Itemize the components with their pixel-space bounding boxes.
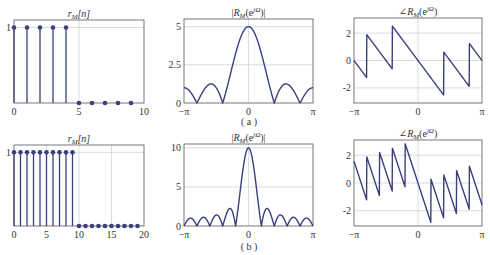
plot-title: rM[n] <box>68 8 91 21</box>
stem-marker <box>83 224 88 229</box>
x-tick-label: −π <box>349 229 360 240</box>
y-tick-label: 5 <box>176 21 181 32</box>
y-tick-label: 5 <box>176 181 181 192</box>
x-tick-label: π <box>479 106 484 117</box>
plot-b-phase: −π0π-202∠RM(ejΩ) <box>343 127 485 240</box>
figure-canvas: 05101rM[n] −π0π02.55|RM(ejΩ)| −π0π-202∠R… <box>0 0 490 255</box>
plot-title: rM[n] <box>68 133 91 146</box>
y-tick-label: 10 <box>171 142 181 153</box>
stem-marker <box>51 25 56 30</box>
figure: 05101rM[n] −π0π02.55|RM(ejΩ)| −π0π-202∠R… <box>0 0 490 255</box>
plot-a-phase: −π0π-202∠RM(ejΩ) <box>343 5 485 117</box>
x-tick-label: 0 <box>416 229 421 240</box>
stem-marker <box>44 150 49 155</box>
y-tick-label: 1 <box>6 22 11 33</box>
stem-marker <box>38 25 43 30</box>
stem-marker <box>25 150 30 155</box>
plot-a-magnitude: −π0π02.55|RM(ejΩ)| <box>169 6 316 117</box>
caption-a: ( a ) <box>241 116 257 128</box>
plot-title: |RM(ejΩ)| <box>231 6 265 20</box>
x-tick-label: 0 <box>12 229 17 240</box>
stem-marker <box>135 224 140 229</box>
stem-marker <box>51 150 56 155</box>
stem-marker <box>64 150 69 155</box>
stem-marker <box>109 224 114 229</box>
x-tick-label: 10 <box>74 229 84 240</box>
y-tick-label: 2 <box>346 28 351 39</box>
stem-marker <box>77 224 82 229</box>
plot-title: ∠RM(ejΩ) <box>399 5 437 19</box>
x-tick-label: π <box>479 229 484 240</box>
stem-marker <box>116 224 121 229</box>
stem-marker <box>57 150 62 155</box>
stem-marker <box>12 150 17 155</box>
x-tick-label: 5 <box>77 106 82 117</box>
stem-marker <box>129 224 134 229</box>
x-tick-label: π <box>310 106 315 117</box>
stem-marker <box>64 25 69 30</box>
plot-a-time: 05101rM[n] <box>6 8 149 117</box>
x-tick-label: π <box>310 229 315 240</box>
x-tick-label: 5 <box>44 229 49 240</box>
stem-marker <box>25 25 30 30</box>
stem-marker <box>103 101 108 106</box>
y-tick-label: 1 <box>6 147 11 158</box>
stem-marker <box>31 150 36 155</box>
x-tick-label: 0 <box>416 106 421 117</box>
y-tick-label: 0 <box>176 221 181 232</box>
y-tick-label: 2 <box>346 150 351 161</box>
stem-marker <box>12 25 17 30</box>
plot-b-time: 051015201rM[n] <box>6 133 149 240</box>
stem-marker <box>77 101 82 106</box>
y-tick-label: -2 <box>343 205 351 216</box>
y-tick-label: 0 <box>346 178 351 189</box>
plot-title: ∠RM(ejΩ) <box>399 127 437 141</box>
stem-marker <box>90 224 95 229</box>
plot-b-magnitude: −π0π0510|RM(ejΩ)| <box>171 131 316 240</box>
x-tick-label: 0 <box>12 106 17 117</box>
stem-marker <box>103 224 108 229</box>
x-tick-label: 0 <box>246 229 251 240</box>
stem-marker <box>70 150 75 155</box>
y-tick-label: 0 <box>176 98 181 109</box>
stem-marker <box>116 101 121 106</box>
x-tick-label: 15 <box>107 229 117 240</box>
x-tick-label: 20 <box>139 229 149 240</box>
x-tick-label: 10 <box>139 106 149 117</box>
stem-marker <box>96 224 101 229</box>
y-tick-label: 2.5 <box>169 59 182 70</box>
y-tick-label: -2 <box>343 82 351 93</box>
y-tick-label: 0 <box>346 55 351 66</box>
stem-marker <box>90 101 95 106</box>
stem-marker <box>38 150 43 155</box>
caption-b: ( b ) <box>241 241 258 253</box>
x-tick-label: −π <box>349 106 360 117</box>
stem-marker <box>129 101 134 106</box>
plot-title: |RM(ejΩ)| <box>231 131 265 145</box>
stem-marker <box>18 150 23 155</box>
stem-marker <box>122 224 127 229</box>
